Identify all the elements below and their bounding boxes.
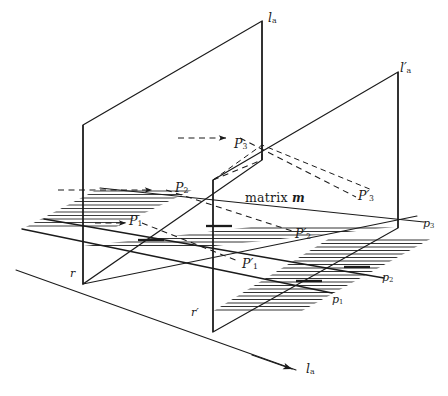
- dashed-P3-to-P3prime: [240, 138, 356, 197]
- ground-edge-front: [16, 270, 296, 370]
- label-ray-p1: p1: [332, 294, 343, 306]
- label-point-P2-prime: P′2: [295, 228, 311, 241]
- label-plane-back: l′a: [400, 62, 411, 75]
- label-point-P3-prime: P′3: [358, 190, 374, 203]
- label-origin-r: r: [70, 268, 75, 279]
- plane-front-outline: [83, 21, 262, 284]
- dashed-intersection-line: [213, 145, 372, 190]
- label-ray-p2: p2: [382, 272, 393, 284]
- hatch-band-right: [150, 240, 440, 310]
- plane-front: [83, 21, 262, 284]
- label-point-P1-prime: P′1: [242, 258, 258, 271]
- label-axis-la: la: [306, 363, 315, 376]
- label-origin-r-prime: r′: [191, 307, 199, 318]
- diagram-canvas: la l′a la matrix m P1 P2 P3 P′1 P′2 P′3 …: [0, 0, 448, 396]
- plane-front-vertical-edge: [83, 21, 262, 284]
- label-point-P2: P2: [175, 182, 188, 195]
- label-plane-front: la: [268, 12, 277, 25]
- axis-arrow-la: [252, 355, 292, 369]
- band-accent-segments: [138, 226, 370, 281]
- label-matrix-m: matrix m: [245, 192, 305, 205]
- axis-arrow-line: [252, 355, 292, 369]
- label-point-P1: P1: [129, 215, 142, 228]
- ground-base-lines: [16, 216, 417, 370]
- projection-diagram-graphic: [0, 0, 448, 396]
- label-point-P3: P3: [234, 138, 247, 151]
- label-ray-p3: p3: [423, 218, 434, 230]
- plane-intersection-dashed: [213, 145, 372, 190]
